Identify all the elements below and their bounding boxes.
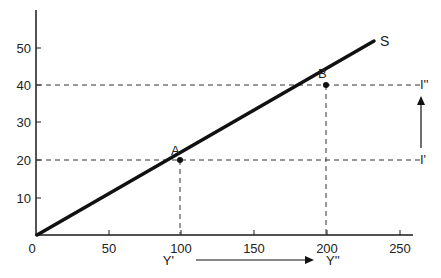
x-tick-label: 150	[243, 241, 265, 256]
x-tick-label: 50	[102, 241, 116, 256]
up-arrow-icon	[417, 96, 425, 105]
x-tick-label: 250	[389, 241, 411, 256]
origin-label: 0	[28, 241, 35, 256]
point-a-label: A	[171, 143, 180, 158]
y-tick-label: 20	[17, 153, 31, 168]
y-prime-label: Y'	[163, 253, 174, 268]
y-tick-label: 50	[17, 41, 31, 56]
y-tick-label: 40	[17, 78, 31, 93]
y-tick-label: 30	[17, 115, 31, 130]
y-tick-labels: 10 20 30 40 50	[17, 41, 31, 206]
y-tick-label: 10	[17, 191, 31, 206]
point-b-marker	[323, 82, 329, 88]
y-double-prime-label: Y''	[326, 253, 340, 268]
point-b-label: B	[318, 66, 327, 81]
right-arrow-icon	[305, 256, 314, 264]
i-prime-label: I'	[420, 152, 426, 167]
guide-lines	[37, 85, 422, 234]
x-tick-labels: 0 50 100 150 200 250	[28, 241, 410, 256]
savings-function-diagram: 10 20 30 40 50 0 50 100 150 200 250 S A …	[0, 0, 441, 278]
i-double-prime-label: I''	[420, 77, 429, 92]
curve-label-s: S	[380, 33, 389, 49]
